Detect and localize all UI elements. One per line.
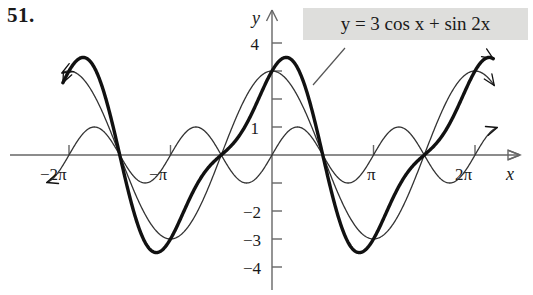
y-tick-label-4: 4 xyxy=(251,35,260,54)
arrowhead-sum-right xyxy=(482,49,494,59)
x-arrow-upper xyxy=(508,150,520,155)
graph-figure: 4 1 −2 −3 −4 −2π −π π 2π y x xyxy=(0,0,533,295)
y-tick-label-neg4: −4 xyxy=(243,259,262,278)
y-tick-label-neg3: −3 xyxy=(243,231,261,250)
x-tick-label-neg2pi: −2π xyxy=(40,165,67,184)
x-tick-label-pi: π xyxy=(367,165,376,184)
y-tick-label-neg2: −2 xyxy=(243,203,261,222)
annotation-leader-line xyxy=(313,48,345,85)
y-axis-label: y xyxy=(250,8,260,28)
y-arrow-left xyxy=(267,10,273,21)
equation-text: y = 3 cos x + sin 2x xyxy=(341,13,491,35)
equation-label-box: y = 3 cos x + sin 2x xyxy=(303,8,528,40)
x-arrow-lower xyxy=(508,155,520,160)
x-axis-label: x xyxy=(505,164,514,184)
figure-page: 51. 4 1 −2 xyxy=(0,0,533,295)
y-arrow-right xyxy=(272,10,278,21)
y-tick-label-1: 1 xyxy=(251,119,260,138)
x-tick-label-2pi: 2π xyxy=(455,165,473,184)
